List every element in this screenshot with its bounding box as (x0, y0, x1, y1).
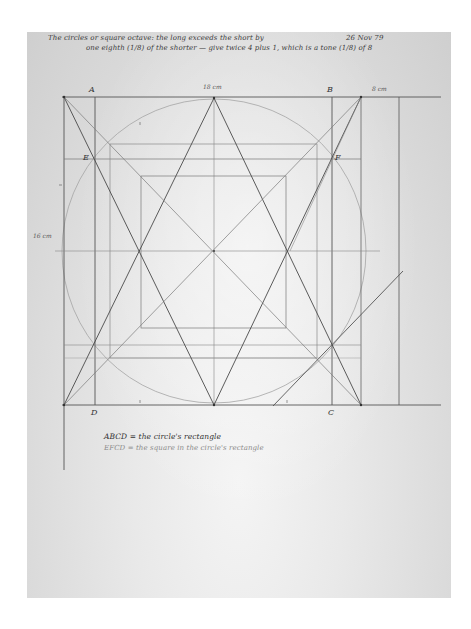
point-bottom-left (63, 404, 65, 406)
drawing-sheet: The circles or square octave: the long e… (0, 0, 471, 629)
point-bottom-right (360, 404, 362, 406)
label-A: A (89, 85, 95, 94)
line-corner-to-F (290, 97, 361, 251)
label-B: B (327, 85, 333, 94)
extension-diagonal (273, 271, 403, 406)
dimension-left: 16 cm (33, 232, 52, 239)
dimension-top: 18 cm (203, 83, 222, 90)
label-F: F (335, 153, 341, 162)
note-date: 26 Nov 79 (346, 34, 383, 42)
label-E: E (83, 153, 89, 162)
legend-line-2: EFCD = the square in the circle's rectan… (104, 444, 264, 452)
label-D: D (91, 408, 97, 417)
point-bottom-center (213, 404, 215, 406)
note-line-2: one eighth (1/8) of the shorter — give t… (86, 44, 372, 52)
label-C: C (328, 408, 334, 417)
note-line-1: The circles or square octave: the long e… (48, 34, 264, 42)
point-center (213, 250, 215, 252)
legend-line-1: ABCD = the circle's rectangle (104, 432, 221, 441)
dimension-right: 8 cm (372, 85, 387, 92)
point-top-right (360, 96, 362, 98)
geometric-construction (0, 0, 471, 629)
point-top-left (63, 96, 66, 99)
point-apex (213, 97, 215, 99)
